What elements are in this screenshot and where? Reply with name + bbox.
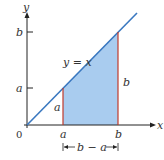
height-label-b: b xyxy=(123,76,130,89)
x-tick-label-a: a xyxy=(60,128,67,141)
y-tick-label-a: a xyxy=(16,82,23,95)
x-axis-label: x xyxy=(157,119,164,132)
width-annotation: b − a xyxy=(77,141,107,154)
x-axis-arrow-icon xyxy=(150,123,156,128)
width-arrowhead-right-icon xyxy=(113,145,117,149)
origin-label: 0 xyxy=(16,129,22,140)
y-tick-label-b: b xyxy=(16,26,23,39)
shaded-region xyxy=(63,32,118,125)
area-under-line-diagram: y x 0 b a a b y = x a b b − a xyxy=(0,0,164,160)
x-tick-label-b: b xyxy=(115,128,122,141)
line-label: y = x xyxy=(62,56,92,69)
width-arrowhead-left-icon xyxy=(64,145,68,149)
y-axis-label: y xyxy=(22,1,30,14)
height-label-a: a xyxy=(54,101,61,114)
